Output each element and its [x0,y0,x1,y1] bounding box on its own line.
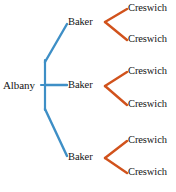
node-baker-3: Baker [68,152,93,163]
tree-diagram-canvas: Albany Baker Baker Baker Creswich Creswi… [0,0,176,192]
node-baker-1: Baker [68,17,93,28]
node-baker-2: Baker [68,80,93,91]
node-creswich-6: Creswich [128,167,167,178]
branch-baker3-creswich-2 [105,158,127,173]
node-creswich-3: Creswich [128,66,167,77]
tree-branch-lines [0,0,176,192]
branch-baker1-creswich-2 [105,22,127,40]
node-creswich-5: Creswich [128,135,167,146]
branch-baker2-creswich-1 [105,72,127,86]
node-creswich-1: Creswich [128,3,167,14]
branch-baker3-creswich-1 [105,141,127,158]
node-root-albany: Albany [3,80,35,91]
node-creswich-2: Creswich [128,34,167,45]
node-creswich-4: Creswich [128,99,167,110]
branch-albany-baker-1 [45,24,67,62]
branch-albany-baker-3 [45,109,67,156]
branch-baker1-creswich-1 [105,9,127,22]
branch-baker2-creswich-2 [105,86,127,105]
